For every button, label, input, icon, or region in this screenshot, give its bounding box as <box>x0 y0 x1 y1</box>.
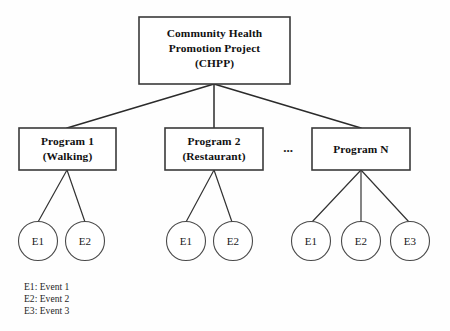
program-n-label-line-1: Program N <box>333 143 389 155</box>
program-1-label-line-1: Program 1 <box>41 135 94 147</box>
node-event-g3-e3[interactable]: E3 <box>391 222 430 261</box>
node-program-2[interactable]: Program 2 (Restaurant) <box>165 128 263 170</box>
program-n-to-event-edges <box>312 170 409 222</box>
program-2-label-line-1: Program 2 <box>188 135 241 147</box>
node-event-g1-e1[interactable]: E1 <box>19 222 58 261</box>
edge-root-to-program-n <box>214 84 361 128</box>
edge-program-1-to-e2 <box>67 170 85 222</box>
node-event-g3-e1[interactable]: E1 <box>292 222 331 261</box>
node-event-g3-e2[interactable]: E2 <box>342 222 381 261</box>
event-label: E1 <box>180 235 193 247</box>
event-group-program-n: E1 E2 E3 <box>292 222 430 261</box>
event-label: E1 <box>32 235 45 247</box>
root-to-program-edges <box>67 84 361 128</box>
edge-program-1-to-e1 <box>38 170 67 222</box>
node-event-g2-e1[interactable]: E1 <box>167 222 206 261</box>
edge-program-n-to-e3 <box>361 170 409 222</box>
root-label-line-3: (CHPP) <box>195 57 234 70</box>
event-label: E3 <box>404 235 417 247</box>
program-1-to-event-edges <box>38 170 85 222</box>
legend: E1: Event 1 E2: Event 2 E3: Event 3 <box>24 281 69 316</box>
legend-item-e3: E3: Event 3 <box>24 305 69 316</box>
legend-item-e2: E2: Event 2 <box>24 293 69 304</box>
event-group-program-2: E1 E2 <box>167 222 253 261</box>
program-2-label-line-2: (Restaurant) <box>182 150 245 163</box>
edge-program-2-to-e2 <box>214 170 232 222</box>
node-event-g2-e2[interactable]: E2 <box>214 222 253 261</box>
edge-root-to-program-1 <box>67 84 214 128</box>
root-label-line-2: Promotion Project <box>169 42 261 54</box>
ellipsis-label: ... <box>283 140 293 155</box>
node-root-chpp[interactable]: Community Health Promotion Project (CHPP… <box>139 17 290 84</box>
event-label: E2 <box>227 235 240 247</box>
node-program-1[interactable]: Program 1 (Walking) <box>19 128 116 170</box>
root-label-line-1: Community Health <box>167 27 263 39</box>
diagram-canvas: Community Health Promotion Project (CHPP… <box>0 0 450 331</box>
program-1-label-line-2: (Walking) <box>43 150 93 163</box>
program-2-to-event-edges <box>186 170 232 222</box>
node-program-n[interactable]: Program N <box>312 128 410 170</box>
node-event-g1-e2[interactable]: E2 <box>66 222 105 261</box>
event-label: E2 <box>355 235 368 247</box>
org-tree-diagram: Community Health Promotion Project (CHPP… <box>0 0 450 331</box>
event-label: E1 <box>305 235 318 247</box>
legend-item-e1: E1: Event 1 <box>24 281 69 292</box>
edge-program-2-to-e1 <box>186 170 214 222</box>
edge-program-n-to-e1 <box>312 170 361 222</box>
event-label: E2 <box>79 235 92 247</box>
event-group-program-1: E1 E2 <box>19 222 105 261</box>
